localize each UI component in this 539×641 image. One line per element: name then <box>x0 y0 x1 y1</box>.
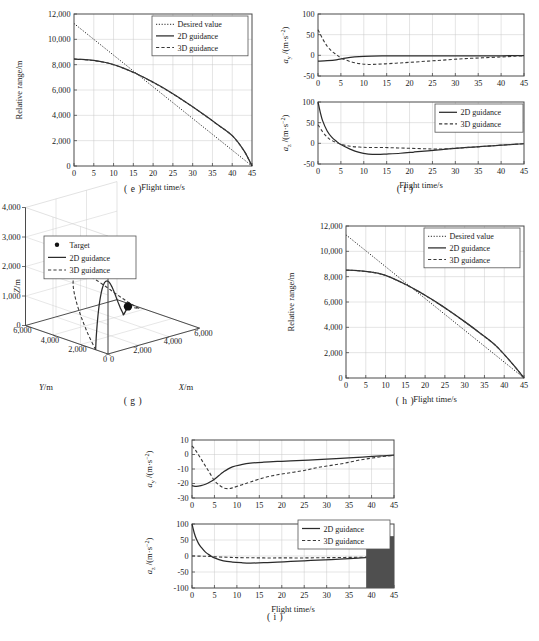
svg-text:4,000: 4,000 <box>324 323 342 332</box>
svg-text:5: 5 <box>212 501 216 510</box>
svg-text:25: 25 <box>300 501 308 510</box>
chart-e: 05101520253035404502,0004,0006,0008,0001… <box>0 4 266 196</box>
svg-text:6,000: 6,000 <box>13 326 31 335</box>
svg-text:45: 45 <box>390 501 398 510</box>
series-2d-guidance <box>318 56 524 62</box>
svg-text:15: 15 <box>129 169 137 178</box>
svg-text:0: 0 <box>72 169 76 178</box>
svg-text:15: 15 <box>255 501 263 510</box>
svg-text:35: 35 <box>474 79 482 88</box>
svg-text:10: 10 <box>109 169 117 178</box>
svg-text:0: 0 <box>344 381 348 390</box>
svg-text:0: 0 <box>190 591 194 600</box>
svg-text:0: 0 <box>310 139 314 148</box>
svg-text:20: 20 <box>405 79 413 88</box>
svg-text:15: 15 <box>255 591 263 600</box>
svg-text:45: 45 <box>248 169 256 178</box>
svg-text:2,000: 2,000 <box>68 345 86 354</box>
legend-label: 3D guidance <box>461 120 502 129</box>
svg-text:0: 0 <box>66 162 70 171</box>
svg-text:100: 100 <box>176 520 188 529</box>
svg-text:30: 30 <box>451 79 459 88</box>
series-2d-guidance <box>74 59 252 166</box>
svg-text:10: 10 <box>381 381 389 390</box>
svg-text:3,000: 3,000 <box>2 233 20 242</box>
chart-h: 05101520253035404502,0004,0006,0008,0001… <box>272 212 538 408</box>
svg-text:4,000: 4,000 <box>52 111 70 120</box>
svg-text:35: 35 <box>345 591 353 600</box>
svg-text:-20: -20 <box>178 479 189 488</box>
svg-text:-50: -50 <box>304 72 315 81</box>
y-axis-label: az /(m·s−2) <box>280 115 292 152</box>
svg-text:10: 10 <box>180 436 188 445</box>
legend-label: Desired value <box>450 232 495 241</box>
series-2d-guidance <box>346 270 524 378</box>
legend: Desired value2D guidance3D guidance <box>424 228 520 268</box>
svg-text:45: 45 <box>390 591 398 600</box>
panel-g: 01,0002,0003,0004,00002,0004,0006,00002,… <box>0 212 266 408</box>
svg-text:4,000: 4,000 <box>41 336 59 345</box>
svg-text:-10: -10 <box>178 465 189 474</box>
svg-text:10,000: 10,000 <box>320 247 343 256</box>
y-axis-label: Relative range/m <box>14 60 24 119</box>
svg-text:25: 25 <box>441 381 449 390</box>
svg-text:0: 0 <box>184 450 188 459</box>
svg-text:5: 5 <box>212 591 216 600</box>
svg-text:15: 15 <box>383 79 391 88</box>
chart-f: 051015202530354045-50050100ay /(m·s−2)05… <box>272 4 538 196</box>
svg-text:100: 100 <box>302 10 314 19</box>
legend-label: 2D guidance <box>178 32 219 41</box>
svg-text:30: 30 <box>323 591 331 600</box>
caption-f: ( f ) <box>272 184 538 194</box>
svg-text:10: 10 <box>233 501 241 510</box>
legend-label: 3D guidance <box>70 266 111 275</box>
svg-text:20: 20 <box>278 501 286 510</box>
svg-text:40: 40 <box>228 169 236 178</box>
svg-text:45: 45 <box>520 381 528 390</box>
caption-h: ( h ) <box>272 396 538 406</box>
svg-text:15: 15 <box>401 381 409 390</box>
svg-text:4,000: 4,000 <box>164 337 182 346</box>
svg-text:6,000: 6,000 <box>194 329 212 338</box>
svg-text:-100: -100 <box>173 584 188 593</box>
svg-text:10: 10 <box>360 167 368 176</box>
svg-text:4,000: 4,000 <box>2 203 20 212</box>
svg-text:30: 30 <box>189 169 197 178</box>
caption-g: ( g ) <box>0 396 266 406</box>
svg-text:30: 30 <box>323 501 331 510</box>
svg-text:0: 0 <box>184 552 188 561</box>
svg-text:20: 20 <box>421 381 429 390</box>
svg-text:40: 40 <box>497 79 505 88</box>
z-axis-label-3d: Z/m <box>12 279 22 293</box>
svg-text:5: 5 <box>339 167 343 176</box>
legend-label: 2D guidance <box>70 254 111 263</box>
svg-text:30: 30 <box>461 381 469 390</box>
svg-text:25: 25 <box>169 169 177 178</box>
series-3d-guidance <box>192 556 367 558</box>
caption-i: ( i ) <box>130 612 420 622</box>
panel-e: 05101520253035404502,0004,0006,0008,0001… <box>0 4 266 196</box>
series-3d-guidance <box>74 59 252 166</box>
svg-text:0: 0 <box>110 355 114 364</box>
svg-text:40: 40 <box>367 591 375 600</box>
svg-text:45: 45 <box>520 167 528 176</box>
legend-label: 2D guidance <box>324 525 365 534</box>
chart-i: 051015202530354045-30-20-10010ay /(m·s−2… <box>130 432 420 628</box>
svg-text:12,000: 12,000 <box>320 222 343 231</box>
svg-text:-50: -50 <box>178 568 189 577</box>
svg-text:25: 25 <box>428 79 436 88</box>
y-axis-label: ay /(m·s−2) <box>144 450 156 487</box>
legend-label: 2D guidance <box>461 108 502 117</box>
svg-text:25: 25 <box>428 167 436 176</box>
svg-text:-50: -50 <box>304 160 315 169</box>
svg-text:2,000: 2,000 <box>2 262 20 271</box>
svg-text:6,000: 6,000 <box>52 86 70 95</box>
svg-text:0: 0 <box>338 374 342 383</box>
svg-text:10,000: 10,000 <box>48 35 71 44</box>
svg-text:20: 20 <box>278 591 286 600</box>
svg-text:50: 50 <box>306 31 314 40</box>
svg-text:20: 20 <box>405 167 413 176</box>
svg-text:0: 0 <box>316 167 320 176</box>
svg-text:30: 30 <box>451 167 459 176</box>
y-axis-label: az /(m·s−2) <box>144 538 156 575</box>
